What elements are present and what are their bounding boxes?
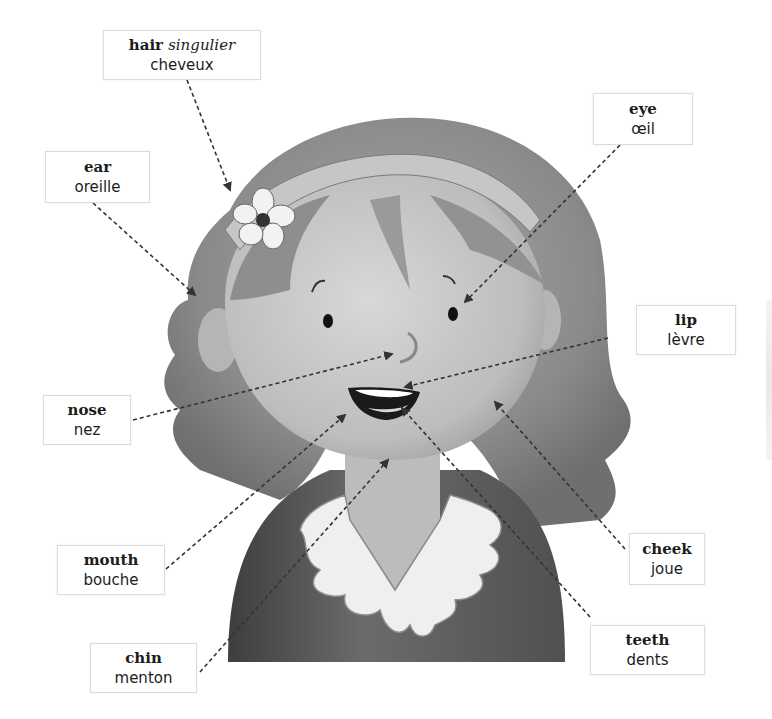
label-hair-french: cheveux (150, 55, 213, 75)
page-edge-strip (766, 300, 772, 460)
label-lip-english: lip (675, 310, 697, 330)
label-teeth-english: teeth (626, 630, 670, 650)
label-chin-english: chin (125, 648, 162, 668)
label-lip-french: lèvre (667, 330, 704, 350)
label-chin-french: menton (115, 668, 173, 688)
label-nose: nose nez (43, 395, 131, 445)
label-cheek-english: cheek (642, 539, 692, 559)
label-mouth-french: bouche (83, 570, 138, 590)
label-nose-french: nez (74, 420, 101, 440)
label-teeth-french: dents (627, 650, 669, 670)
label-mouth-english: mouth (84, 550, 139, 570)
label-hair-english: hair (129, 36, 163, 54)
label-cheek: cheek joue (629, 533, 705, 585)
leader-ear (93, 203, 195, 295)
label-cheek-french: joue (651, 559, 683, 579)
label-chin: chin menton (90, 643, 197, 693)
label-ear-french: oreille (75, 177, 121, 197)
label-ear: ear oreille (45, 151, 150, 203)
label-eye-french: œil (631, 119, 655, 139)
label-eye: eye œil (593, 93, 693, 145)
right-eye (448, 307, 458, 321)
label-ear-english: ear (84, 157, 111, 177)
leader-hair (187, 80, 230, 190)
label-mouth: mouth bouche (57, 545, 165, 595)
left-eye (323, 314, 333, 328)
label-nose-english: nose (68, 400, 107, 420)
label-teeth: teeth dents (590, 625, 705, 675)
label-eye-english: eye (629, 99, 657, 119)
label-lip: lip lèvre (636, 305, 736, 355)
label-hair-note: singulier (168, 36, 235, 54)
label-hair: hair singulier cheveux (103, 30, 261, 80)
